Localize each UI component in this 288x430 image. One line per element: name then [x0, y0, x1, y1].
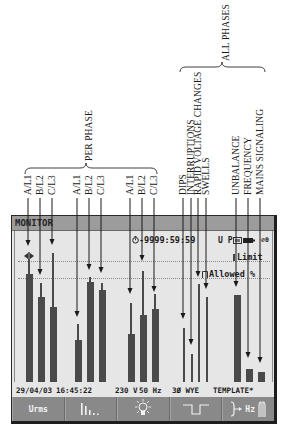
label-b-l2-harmonics: B/L2 [84, 0, 94, 195]
softkey-unbalance-hz-mains[interactable]: Hz [222, 397, 274, 421]
flicker-lightbulb-icon [130, 399, 156, 419]
label-b-l2-rms: B/L2 [35, 0, 45, 195]
softkey-hz-label: Hz [245, 405, 255, 414]
label-a-l1-rms: A/L1 [23, 0, 33, 195]
bar-a-l1-rms[interactable] [26, 216, 33, 382]
status-frequency: 50 Hz [139, 386, 162, 395]
softkey-urms-label: Urms [29, 405, 48, 414]
unbalance-arrow-icon [230, 401, 242, 417]
bar-frequency[interactable] [246, 216, 253, 382]
monitor-screen-diagram: PER PHASE ALL PHASES A/L1 B/L2 C/L3 A/L1… [0, 0, 288, 430]
softkey-urms[interactable]: Urms [12, 397, 65, 421]
bar-b-l2-flicker[interactable] [140, 216, 147, 382]
bar-rapid-voltage-changes[interactable] [196, 216, 203, 382]
bar-c-l3-harmonics[interactable] [99, 216, 106, 382]
softkey-flicker[interactable] [117, 397, 170, 421]
label-mains-signaling: MAINS SIGNALING [255, 0, 265, 195]
bar-a-l1-flicker[interactable] [128, 216, 135, 382]
status-template: TEMPLATE* [213, 386, 254, 395]
softkey-harmonics[interactable] [65, 397, 118, 421]
status-config: 3Ø WYE [172, 386, 199, 395]
status-voltage: 230 V [115, 386, 138, 395]
bar-c-l3-flicker[interactable] [152, 216, 159, 382]
bar-a-l1-harmonics[interactable] [75, 216, 82, 382]
label-swells: SWELLS [201, 0, 211, 195]
bar-swells[interactable] [204, 216, 211, 382]
label-c-l3-flicker: C/L3 [149, 0, 159, 195]
bar-b-l2-harmonics[interactable] [87, 216, 94, 382]
label-unbalance: UNBALANCE [231, 0, 241, 195]
bar-plot [12, 216, 274, 382]
softkey-bar: Urms [12, 397, 274, 421]
bar-unbalance[interactable] [234, 216, 241, 382]
label-c-l3-harmonics: C/L3 [96, 0, 106, 195]
status-date: 29/04/03 [16, 386, 52, 395]
harmonics-bars-icon [80, 403, 102, 415]
bar-c-l3-rms[interactable] [50, 216, 57, 382]
label-b-l2-flicker: B/L2 [137, 0, 147, 195]
bar-mains-signaling[interactable] [258, 216, 265, 382]
label-a-l1-harmonics: A/L1 [72, 0, 82, 195]
bar-interruptions[interactable] [189, 216, 196, 382]
status-time: 16:45:22 [56, 386, 92, 395]
mains-signaling-icon [258, 401, 267, 417]
bar-dips[interactable] [181, 216, 188, 382]
label-frequency: FREQUENCY [243, 0, 253, 195]
dips-pulse-icon [182, 402, 210, 416]
instrument-screen: MONITOR -9999:59:59 U P ⌀0 Limit Allowed… [11, 215, 277, 424]
bar-b-l2-rms[interactable] [38, 216, 45, 382]
all-phases-group-label: ALL PHASES [221, 0, 231, 61]
softkey-dips[interactable] [170, 397, 223, 421]
label-a-l1-flicker: A/L1 [125, 0, 135, 195]
label-c-l3-rms: C/L3 [47, 0, 57, 195]
